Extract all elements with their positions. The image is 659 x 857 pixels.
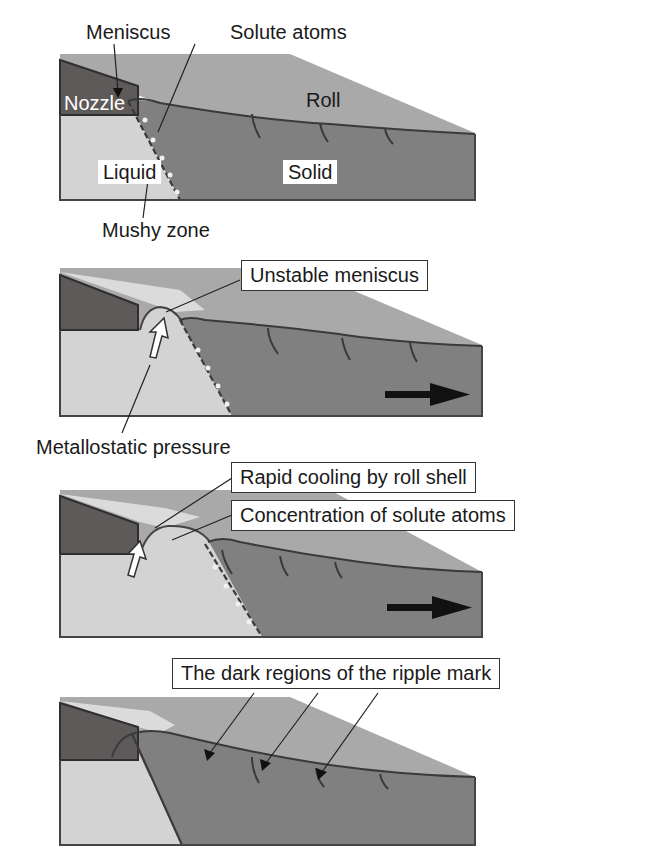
label-solid: Solid <box>283 160 337 184</box>
label-concentration-solute: Concentration of solute atoms <box>231 500 515 531</box>
panel-1-solidification-overview: Meniscus Solute atoms Nozzle Roll Liquid… <box>0 0 659 250</box>
panel-2-unstable-meniscus: Unstable meniscus Metallostatic pressure <box>0 250 659 465</box>
panel-4-ripple-mark: The dark regions of the ripple mark <box>0 645 659 857</box>
label-nozzle: Nozzle <box>64 93 125 113</box>
panel-3-rapid-cooling: Rapid cooling by roll shell Concentratio… <box>0 462 659 642</box>
label-solute-atoms: Solute atoms <box>230 22 347 42</box>
label-unstable-meniscus: Unstable meniscus <box>241 260 428 291</box>
label-liquid: Liquid <box>98 160 161 184</box>
label-mushy-zone: Mushy zone <box>102 220 210 240</box>
label-metallostatic-pressure: Metallostatic pressure <box>36 437 231 457</box>
label-ripple-dark-regions: The dark regions of the ripple mark <box>172 658 500 689</box>
label-meniscus: Meniscus <box>86 22 170 42</box>
label-roll: Roll <box>306 90 340 110</box>
label-rapid-cooling: Rapid cooling by roll shell <box>231 462 476 493</box>
